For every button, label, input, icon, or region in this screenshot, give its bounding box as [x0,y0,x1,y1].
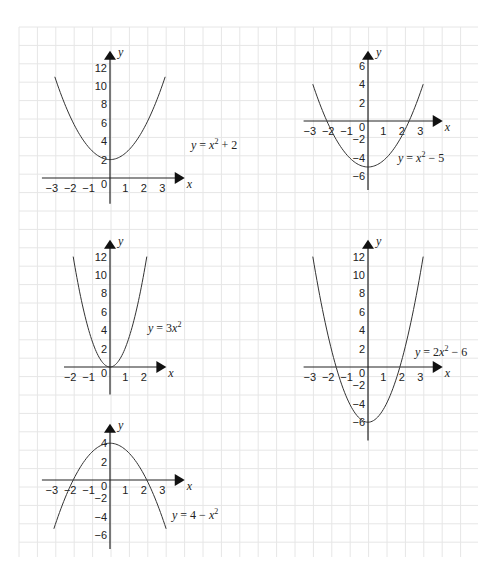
x-axis-label: x [186,479,193,493]
y-axis-arrow-icon [104,424,116,433]
equation-label: y = 2x2 − 6 [414,344,467,359]
y-axis-arrow-icon [104,240,116,249]
y-tick-label: −6 [352,170,365,182]
graph-x2-plus-2: xy−3−2−1012324681012y = x2 + 2 [42,45,237,204]
x-tick-label: −1 [82,484,95,496]
x-tick-label: 0 [359,367,365,379]
y-tick-label: 2 [359,343,365,355]
grid-background [19,27,478,557]
x-tick-label: −2 [64,182,77,194]
y-axis-label: y [117,234,124,248]
x-tick-label: −3 [46,484,59,496]
y-tick-label: 8 [101,287,107,299]
y-tick-label: 12 [95,251,107,263]
y-tick-label: −6 [94,529,107,541]
x-tick-label: −1 [340,371,353,383]
x-axis-label: x [186,177,193,191]
x-tick-label: −1 [82,371,95,383]
equation-label: y = 3x2 [147,320,181,335]
graph-x2-minus-5: xy−3−2−10123−6−4−2642y = x2 − 5 [304,45,451,190]
y-tick-label: 6 [101,117,107,129]
y-tick-label: −2 [94,492,107,504]
y-tick-label: 2 [101,343,107,355]
x-tick-label: 2 [141,182,147,194]
x-tick-label: 2 [399,371,405,383]
y-tick-label: −2 [352,133,365,145]
x-tick-label: −2 [64,371,77,383]
y-tick-label: −2 [352,379,365,391]
y-tick-label: 6 [101,306,107,318]
x-tick-label: 3 [417,371,423,383]
equation-label: y = 4 − x2 [171,507,218,522]
x-tick-label: −1 [340,125,353,137]
x-tick-label: −1 [82,182,95,194]
y-tick-label: 10 [95,269,107,281]
x-tick-label: 2 [141,371,147,383]
x-tick-label: −3 [304,125,317,137]
equation-label: y = x2 + 2 [190,137,237,152]
y-tick-label: 10 [353,269,365,281]
y-tick-label: 4 [359,78,365,90]
y-axis-arrow-icon [362,240,374,249]
y-tick-label: 10 [95,80,107,92]
x-tick-label: −3 [304,371,317,383]
x-tick-label: 0 [101,178,107,190]
y-tick-label: 12 [353,251,365,263]
y-tick-label: 8 [101,98,107,110]
y-axis-label: y [375,234,382,248]
y-tick-label: 4 [101,135,107,147]
y-axis-label: y [375,45,382,59]
x-tick-label: 3 [159,484,165,496]
x-axis-label: x [444,120,451,134]
x-tick-label: 3 [417,125,423,137]
y-axis-arrow-icon [362,51,374,60]
y-tick-label: −4 [352,398,365,410]
graph-4-minus-x2: xy−3−2−10123−6−4−224y = 4 − x2 [42,418,218,549]
y-tick-label: 2 [359,97,365,109]
y-tick-label: 4 [101,324,107,336]
equation-label: y = x2 − 5 [397,150,444,165]
x-tick-label: 2 [141,484,147,496]
y-tick-label: 12 [95,62,107,74]
x-axis-arrow-icon [433,361,443,373]
y-tick-label: 6 [359,306,365,318]
y-tick-label: 2 [101,456,107,468]
x-axis-arrow-icon [433,115,443,127]
y-tick-label: 4 [359,324,365,336]
y-tick-label: 6 [359,60,365,72]
x-tick-label: 1 [122,182,128,194]
x-tick-label: −2 [322,125,335,137]
x-tick-label: 1 [380,371,386,383]
x-tick-label: 1 [122,371,128,383]
x-axis-arrow-icon [156,361,166,373]
x-tick-label: 0 [101,367,107,379]
y-tick-label: 8 [359,287,365,299]
x-tick-label: −3 [46,182,59,194]
y-tick-label: −4 [94,511,107,523]
x-axis-arrow-icon [175,474,185,486]
x-tick-label: 1 [380,125,386,137]
y-axis-label: y [117,418,124,432]
graph-paper-canvas: xy−3−2−1012324681012y = x2 + 2xy−3−2−101… [0,0,492,574]
y-axis-arrow-icon [104,51,116,60]
x-tick-label: 3 [159,182,165,194]
y-axis-label: y [117,45,124,59]
x-tick-label: 0 [359,121,365,133]
x-tick-label: 0 [101,480,107,492]
x-axis-label: x [167,366,174,380]
graph-3x2: xy−2−101224681012y = 3x2 [64,234,182,395]
graphs-container: xy−3−2−1012324681012y = x2 + 2xy−3−2−101… [42,45,467,549]
x-tick-label: −2 [322,371,335,383]
x-axis-label: x [444,366,451,380]
x-tick-label: 1 [122,484,128,496]
